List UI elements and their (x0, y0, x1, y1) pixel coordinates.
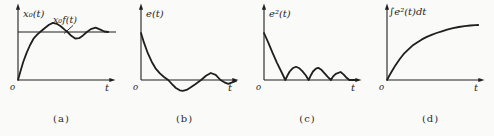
x-axis-label: t (474, 83, 478, 93)
y-axis-label: e²(t) (269, 9, 291, 19)
origin-label: o (133, 83, 138, 92)
panel-d: ∫e²(t)dt o t (d) (369, 0, 494, 136)
panel-a: x₀(t) x₀f(t) o t (a) (0, 0, 123, 136)
y-axis-label: x₀(t) (23, 9, 44, 19)
panel-b: e(t) o t (b) (123, 0, 246, 136)
panel-caption: (d) (369, 114, 492, 124)
reference-curve-annotation: x₀f(t) (53, 15, 77, 25)
plot-error (125, 0, 243, 100)
y-axis-label: ∫e²(t)dt (389, 7, 426, 17)
plot-squared-error (248, 0, 366, 100)
panel-caption: (c) (246, 114, 369, 124)
panel-caption: (a) (0, 114, 123, 124)
x-axis-label: t (105, 83, 109, 93)
performance-criteria-figure: x₀(t) x₀f(t) o t (a) e(t) o t (b) e²(t) … (0, 0, 494, 136)
panel-c: e²(t) o t (c) (246, 0, 369, 136)
x-axis-label: t (351, 83, 355, 93)
origin-label: o (379, 83, 384, 92)
y-axis-label: e(t) (146, 9, 164, 19)
origin-label: o (256, 83, 261, 92)
origin-label: o (10, 83, 15, 92)
panel-caption: (b) (123, 114, 246, 124)
x-axis-label: t (228, 83, 232, 93)
